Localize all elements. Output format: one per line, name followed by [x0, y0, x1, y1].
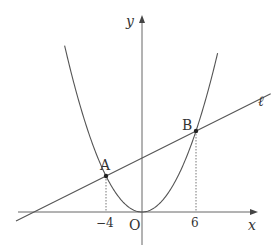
parabola-curve — [65, 46, 218, 212]
point-b-label: B — [182, 117, 192, 133]
diagram-svg: A B ℓ x y O −4 6 — [0, 0, 280, 245]
point-b — [194, 129, 198, 133]
x-axis-arrow-icon — [250, 209, 258, 215]
point-a-label: A — [99, 157, 111, 173]
point-a — [104, 174, 108, 178]
tick-label-neg4: −4 — [96, 216, 114, 230]
line-l-label: ℓ — [258, 93, 264, 109]
y-axis-arrow-icon — [139, 15, 145, 23]
y-axis-label: y — [125, 13, 135, 29]
origin-label: O — [129, 217, 140, 233]
x-axis-label: x — [248, 217, 256, 233]
line-l — [16, 94, 271, 221]
tick-label-6: 6 — [191, 216, 199, 230]
coordinate-diagram: A B ℓ x y O −4 6 — [0, 0, 280, 245]
